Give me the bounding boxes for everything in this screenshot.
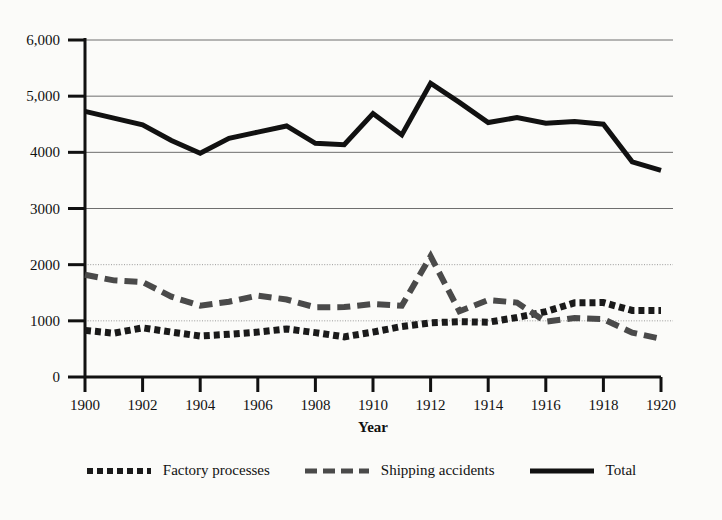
x-axis-tick-label: 1906 (243, 397, 274, 413)
chart-legend: Factory processes Shipping accidents Tot… (0, 462, 722, 479)
dotted-line-swatch (86, 465, 152, 477)
y-axis-tick-label: 6,000 (26, 32, 60, 48)
x-axis-tick-label: 1902 (128, 397, 158, 413)
legend-label-shipping-accidents: Shipping accidents (381, 462, 495, 479)
x-axis-tick-label: 1916 (531, 397, 562, 413)
figure-container: 010002000300040005,0006,000 190019021904… (0, 0, 722, 520)
y-axis-tick-label: 5,000 (26, 88, 60, 104)
y-axis-tick-label: 3000 (30, 201, 60, 217)
y-axis-ticks-group: 010002000300040005,0006,000 (26, 32, 85, 385)
legend-item-factory-processes[interactable]: Factory processes (86, 462, 270, 479)
x-axis-tick-label: 1910 (358, 397, 388, 413)
x-axis-tick-label: 1900 (70, 397, 100, 413)
x-axis-tick-label: 1918 (588, 397, 618, 413)
x-axis-tick-label: 1914 (473, 397, 504, 413)
legend-item-total[interactable]: Total (529, 462, 637, 479)
line-chart: 010002000300040005,0006,000 190019021904… (0, 0, 722, 440)
x-axis-tick-label: 1920 (646, 397, 676, 413)
y-axis-tick-label: 4000 (30, 144, 60, 160)
legend-label-factory-processes: Factory processes (163, 462, 270, 479)
y-axis-tick-label: 2000 (30, 257, 60, 273)
x-axis-tick-label: 1912 (416, 397, 446, 413)
solid-line-swatch (529, 465, 595, 477)
y-axis-tick-label: 0 (53, 369, 61, 385)
data-series-group (85, 83, 661, 339)
x-axis-tick-label: 1904 (185, 397, 216, 413)
plot-area: 010002000300040005,0006,000 190019021904… (0, 0, 722, 440)
x-axis-title: Year (358, 419, 388, 435)
dashed-line-swatch (304, 465, 370, 477)
series-line-shipping-accidents (85, 256, 661, 339)
legend-label-total: Total (606, 462, 637, 479)
x-axis-tick-label: 1908 (300, 397, 330, 413)
gridlines-group (85, 40, 673, 321)
x-axis-ticks-group: 1900190219041906190819101912191419161918… (70, 377, 676, 413)
y-axis-tick-label: 1000 (30, 313, 60, 329)
legend-item-shipping-accidents[interactable]: Shipping accidents (304, 462, 495, 479)
